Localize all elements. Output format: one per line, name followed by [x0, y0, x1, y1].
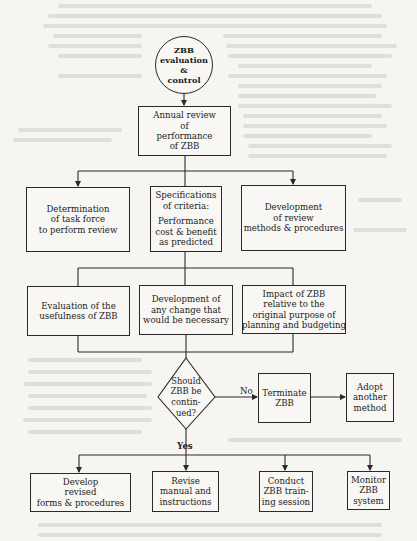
node-text: forms & procedures: [37, 498, 124, 508]
node-text: Specifications: [155, 190, 216, 200]
node-text: Adopt: [357, 382, 383, 392]
node-text: any change that: [151, 305, 221, 315]
node-text: manual and: [160, 486, 211, 496]
node-text: Performance: [158, 216, 214, 226]
node-text: another: [353, 392, 387, 402]
node-text: Impact of ZBB: [263, 289, 326, 299]
node-text: Terminate: [262, 388, 306, 398]
node-text: ZBB be: [170, 386, 201, 397]
node-text: ing session: [262, 497, 310, 507]
terminate-zbb-node: Terminate ZBB: [258, 373, 311, 423]
monitor-zbb-system-node: Monitor ZBB system: [347, 471, 390, 510]
node-text: Revise: [171, 476, 200, 486]
node-text: Determination: [46, 204, 109, 214]
node-text: ZBB: [174, 45, 194, 55]
revise-manual-node: Revise manual and instructions: [152, 471, 219, 512]
node-text: Annual review: [153, 110, 216, 120]
yes-label: Yes: [177, 441, 193, 451]
node-text: ZBB: [359, 485, 378, 495]
adopt-another-method-node: Adopt another method: [346, 373, 394, 422]
node-text: usefulness of ZBB: [39, 311, 117, 321]
evaluation-usefulness-node: Evaluation of the usefulness of ZBB: [27, 286, 130, 336]
node-text: contin-: [171, 397, 200, 408]
node-text: methods & procedures: [244, 223, 344, 233]
specifications-criteria-node: Specifications of criteria: Performance …: [150, 186, 222, 252]
development-review-methods-node: Development of review methods & procedur…: [241, 185, 346, 251]
node-text: method: [354, 403, 387, 413]
node-text: would be necessary: [143, 315, 229, 325]
node-text: to perform review: [39, 225, 118, 235]
development-any-change-node: Development of any change that would be …: [139, 285, 233, 335]
impact-of-zbb-node: Impact of ZBB relative to the original p…: [242, 285, 346, 334]
node-text: instructions: [160, 497, 212, 507]
node-text: revised: [65, 487, 97, 497]
develop-revised-forms-node: Develop revised forms & procedures: [30, 473, 131, 512]
node-text: of review: [273, 213, 313, 223]
node-text: original purpose of: [253, 310, 336, 320]
node-text: Development: [265, 202, 323, 212]
node-text: ued?: [176, 408, 196, 419]
node-text: Conduct: [268, 476, 305, 486]
connector-lines: [0, 0, 417, 541]
node-text: Monitor: [351, 475, 386, 485]
node-text: of: [180, 121, 188, 131]
node-text: &: [180, 65, 187, 75]
no-label: No: [240, 386, 253, 396]
node-text: of criteria:: [163, 201, 209, 211]
decision-should-zbb-continue: Should ZBB be contin- ued?: [160, 370, 212, 424]
node-text: Evaluation of the: [41, 301, 115, 311]
annual-review-node: Annual review of performance of ZBB: [138, 106, 231, 156]
node-text: planning and budgeting: [242, 320, 346, 330]
node-text: control: [167, 75, 200, 85]
determination-task-force-node: Determination of task force to perform r…: [26, 187, 130, 252]
node-text: performance: [157, 131, 213, 141]
node-text: cost & benefit: [155, 227, 216, 237]
node-text: Develop: [63, 477, 98, 487]
node-text: Should: [171, 376, 201, 387]
node-text: ZBB: [275, 398, 294, 408]
node-text: of ZBB: [170, 141, 200, 151]
node-text: evaluation: [160, 55, 208, 65]
node-text: of task force: [51, 214, 105, 224]
node-text: ZBB train-: [263, 486, 308, 496]
node-text: system: [353, 496, 383, 506]
node-text: as predicted: [159, 237, 213, 247]
node-text: relative to the: [263, 299, 324, 309]
start-node-zbb-evaluation-control: ZBB evaluation & control: [155, 36, 213, 94]
node-text: Development of: [152, 294, 221, 304]
conduct-training-node: Conduct ZBB train- ing session: [259, 471, 313, 512]
